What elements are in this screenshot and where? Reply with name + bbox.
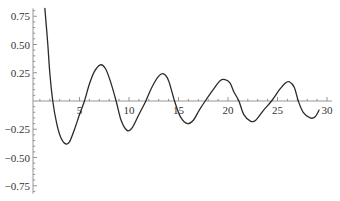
y-axis: −0.75−0.50−0.250.250.500.75 bbox=[5, 8, 37, 193]
y-tick-label: 0.75 bbox=[11, 10, 31, 22]
y-tick-label: 0.25 bbox=[11, 67, 31, 79]
x-axis: 51015202530 bbox=[33, 97, 333, 116]
line-chart: −0.75−0.50−0.250.250.500.75 51015202530 bbox=[0, 0, 340, 201]
data-curve bbox=[45, 8, 319, 144]
y-tick-label: 0.50 bbox=[11, 39, 31, 51]
x-tick-label: 25 bbox=[272, 104, 284, 116]
y-tick-label: −0.50 bbox=[5, 152, 31, 164]
y-tick-label: −0.75 bbox=[5, 180, 31, 192]
x-tick-label: 10 bbox=[124, 104, 136, 116]
x-tick-label: 20 bbox=[223, 104, 235, 116]
x-tick-label: 30 bbox=[322, 104, 334, 116]
y-tick-label: −0.25 bbox=[5, 123, 31, 135]
